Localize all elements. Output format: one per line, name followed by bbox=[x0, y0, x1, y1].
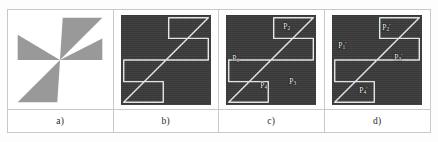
caption-d: d) bbox=[325, 110, 431, 132]
pinwheel-contour-transformed: P1' P2' P3' P4' bbox=[332, 15, 422, 105]
panel-b bbox=[114, 10, 220, 109]
pinwheel-contour-labeled: P1 P2 P3 P4 bbox=[226, 15, 316, 105]
pinwheel-contour bbox=[121, 15, 211, 105]
panel-d: P1' P2' P3' P4' bbox=[325, 10, 431, 109]
figure-container: P1 P2 P3 P4 bbox=[0, 0, 438, 142]
caption-a: a) bbox=[8, 110, 114, 132]
caption-b: b) bbox=[114, 110, 220, 132]
caption-c: c) bbox=[219, 110, 325, 132]
figure-grid: P1 P2 P3 P4 bbox=[7, 9, 431, 133]
panel-c: P1 P2 P3 P4 bbox=[219, 10, 325, 109]
panel-a bbox=[8, 10, 114, 109]
panel-row: P1 P2 P3 P4 bbox=[8, 10, 430, 109]
blade-left bbox=[18, 34, 60, 59]
caption-row: a) b) c) d) bbox=[8, 109, 430, 132]
blade-bottom-left bbox=[18, 60, 60, 102]
pinwheel-filled bbox=[15, 15, 105, 105]
